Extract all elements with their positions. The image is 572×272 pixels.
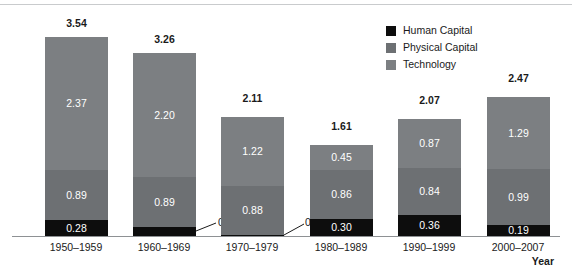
segment-label-physical-capital-1970-1979: 0.88 bbox=[242, 205, 262, 216]
bar-1950-1959[interactable]: 2.37 0.89 0.28 bbox=[45, 37, 108, 236]
bar-total-label-1950-1959: 3.54 bbox=[45, 18, 108, 29]
segment-label-technology-1970-1979: 1.22 bbox=[242, 146, 262, 157]
segment-label-physical-capital-2000-2007: 0.99 bbox=[508, 192, 528, 203]
bar-1970-1979[interactable]: 1.22 0.88 0.01 bbox=[221, 117, 284, 236]
segment-label-technology-1980-1989: 0.45 bbox=[331, 152, 351, 163]
segment-technology-2000-2007: 1.29 bbox=[487, 97, 550, 169]
segment-label-human-capital-1990-1999: 0.36 bbox=[419, 220, 439, 231]
segment-label-physical-capital-1950-1959: 0.89 bbox=[66, 190, 86, 201]
bar-total-label-1990-1999: 2.07 bbox=[398, 95, 461, 106]
segment-technology-1980-1989: 0.45 bbox=[310, 145, 373, 170]
bar-total-label-2000-2007: 2.47 bbox=[487, 73, 550, 84]
bar-total-label-1980-1989: 1.61 bbox=[310, 121, 373, 132]
segment-physical-capital-1960-1969: 0.89 bbox=[133, 177, 196, 227]
callout-leader-line-1970-1979 bbox=[284, 223, 306, 237]
segment-label-physical-capital-1980-1989: 0.86 bbox=[331, 189, 351, 200]
segment-label-human-capital-1950-1959: 0.28 bbox=[66, 223, 86, 234]
x-axis-label-1960-1969: 1960–1969 bbox=[114, 241, 214, 253]
segment-physical-capital-1980-1989: 0.86 bbox=[310, 170, 373, 219]
segment-physical-capital-1990-1999: 0.84 bbox=[398, 168, 461, 215]
bar-2000-2007[interactable]: 1.29 0.99 0.19 bbox=[487, 97, 550, 236]
segment-label-human-capital-2000-2007: 0.19 bbox=[508, 225, 528, 236]
x-axis-label-1970-1979: 1970–1979 bbox=[202, 241, 302, 253]
segment-human-capital-1960-1969: 0.17 bbox=[133, 227, 196, 236]
bar-1980-1989[interactable]: 0.45 0.86 0.30 bbox=[310, 145, 373, 236]
segment-technology-1950-1959: 2.37 bbox=[45, 37, 108, 170]
segment-physical-capital-2000-2007: 0.99 bbox=[487, 169, 550, 225]
segment-technology-1960-1969: 2.20 bbox=[133, 53, 196, 177]
segment-label-technology-1990-1999: 0.87 bbox=[419, 138, 439, 149]
x-axis-category-labels: 1950–1959 1960–1969 1970–1979 1980–1989 … bbox=[0, 241, 572, 255]
bar-1990-1999[interactable]: 0.87 0.84 0.36 bbox=[398, 119, 461, 236]
segment-label-technology-1960-1969: 2.20 bbox=[154, 110, 174, 121]
segment-label-technology-2000-2007: 1.29 bbox=[508, 128, 528, 139]
segment-human-capital-1990-1999: 0.36 bbox=[398, 215, 461, 236]
segment-physical-capital-1970-1979: 0.88 bbox=[221, 186, 284, 235]
segment-human-capital-1950-1959: 0.28 bbox=[45, 220, 108, 236]
bar-total-label-1970-1979: 2.11 bbox=[221, 93, 284, 104]
x-axis-line bbox=[12, 236, 560, 237]
segment-technology-1970-1979: 1.22 bbox=[221, 117, 284, 186]
x-axis-label-1980-1989: 1980–1989 bbox=[291, 241, 391, 253]
segment-human-capital-2000-2007: 0.19 bbox=[487, 225, 550, 236]
segment-label-physical-capital-1990-1999: 0.84 bbox=[419, 186, 439, 197]
bar-total-label-1960-1969: 3.26 bbox=[133, 34, 196, 45]
x-axis-title: Year bbox=[532, 255, 554, 267]
segment-label-human-capital-1980-1989: 0.30 bbox=[331, 222, 351, 233]
stacked-bar-chart: Human Capital Physical Capital Technolog… bbox=[0, 0, 572, 272]
segment-physical-capital-1950-1959: 0.89 bbox=[45, 170, 108, 220]
plot-area: 3.54 2.37 0.89 0.28 3.26 2.20 0.89 0.17 bbox=[0, 0, 572, 236]
bar-1960-1969[interactable]: 2.20 0.89 0.17 bbox=[133, 53, 196, 236]
segment-label-physical-capital-1960-1969: 0.89 bbox=[154, 197, 174, 208]
x-axis-label-1990-1999: 1990–1999 bbox=[379, 241, 479, 253]
x-axis-label-2000-2007: 2000–2007 bbox=[468, 241, 568, 253]
segment-technology-1990-1999: 0.87 bbox=[398, 119, 461, 168]
segment-label-technology-1950-1959: 2.37 bbox=[66, 98, 86, 109]
x-axis-label-1950-1959: 1950–1959 bbox=[26, 241, 126, 253]
segment-human-capital-1980-1989: 0.30 bbox=[310, 219, 373, 236]
callout-leader-line-1960-1969 bbox=[196, 222, 218, 234]
